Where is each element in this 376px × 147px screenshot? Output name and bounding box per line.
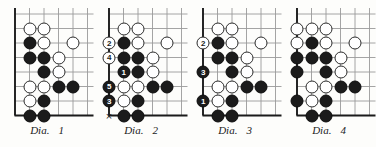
- stone-black: [211, 51, 224, 64]
- stone-white: [211, 80, 224, 93]
- stones-layer: 24153×: [103, 8, 177, 119]
- stone-black: [161, 80, 174, 93]
- go-board: 231: [197, 8, 271, 119]
- stone-white: [305, 80, 318, 93]
- stones-layer: [9, 8, 83, 119]
- stone-white: [320, 80, 333, 93]
- move-stone-2: 2: [197, 37, 210, 50]
- stone-black: [226, 51, 239, 64]
- stones-layer: 231: [197, 8, 271, 119]
- move-stone-5: 5: [103, 80, 116, 93]
- move-stone-3: 3: [103, 95, 116, 108]
- stone-white: [240, 66, 253, 79]
- diagram-caption: Dia.1: [0, 124, 94, 136]
- stone-black: [23, 37, 36, 50]
- stone-black: [255, 80, 268, 93]
- stone-black: [132, 95, 145, 108]
- stone-black: [117, 51, 130, 64]
- stone-white: [23, 95, 36, 108]
- stone-white: [117, 80, 130, 93]
- diagram-caption: Dia.4: [282, 124, 376, 136]
- stone-white: [305, 95, 318, 108]
- stone-white: [305, 22, 318, 35]
- move-number: 2: [104, 38, 115, 49]
- stone-black: [38, 95, 51, 108]
- stone-white: [211, 22, 224, 35]
- stone-white: [146, 51, 159, 64]
- stone-white: [240, 51, 253, 64]
- go-board: 24153×: [103, 8, 177, 119]
- stone-black: [211, 37, 224, 50]
- caption-label: Dia.: [312, 124, 331, 136]
- diagram-3: 231Dia.3: [188, 0, 282, 147]
- caption-label: Dia.: [124, 124, 143, 136]
- stone-white: [226, 80, 239, 93]
- stone-black: [349, 80, 362, 93]
- stone-white: [132, 80, 145, 93]
- stone-white: [320, 37, 333, 50]
- stone-black: [23, 51, 36, 64]
- stone-white: [23, 22, 36, 35]
- stone-black: [320, 66, 333, 79]
- diagram-4: Dia.4: [282, 0, 376, 147]
- stone-white: [161, 37, 174, 50]
- move-stone-2: 2: [103, 37, 116, 50]
- caption-label: Dia.: [218, 124, 237, 136]
- stone-white: [349, 37, 362, 50]
- caption-index: 2: [152, 124, 158, 136]
- stone-black: [146, 80, 159, 93]
- move-stone-1: 1: [197, 95, 210, 108]
- x-mark: ×: [104, 110, 115, 121]
- stone-black: [320, 95, 333, 108]
- move-stone-4: 4: [103, 51, 116, 64]
- stone-black: [226, 66, 239, 79]
- stone-white: [132, 37, 145, 50]
- stone-white: [255, 37, 268, 50]
- stone-white: [226, 22, 239, 35]
- stone-white: [334, 66, 347, 79]
- stone-black: [38, 51, 51, 64]
- caption-index: 3: [246, 124, 252, 136]
- caption-index: 4: [340, 124, 346, 136]
- stones-layer: [291, 8, 365, 119]
- stone-black: [117, 37, 130, 50]
- stone-white: [146, 66, 159, 79]
- stone-white: [226, 37, 239, 50]
- move-number: 1: [118, 67, 129, 78]
- move-number: 3: [104, 96, 115, 107]
- stone-black: [38, 66, 51, 79]
- move-number: 1: [198, 96, 209, 107]
- stone-black: [291, 51, 304, 64]
- move-number: 3: [198, 67, 209, 78]
- caption-index: 1: [58, 124, 64, 136]
- stone-black: [320, 51, 333, 64]
- caption-label: Dia.: [30, 124, 49, 136]
- go-diagram-set: Dia.124153×Dia.2231Dia.3Dia.4: [0, 0, 376, 147]
- stone-black: [132, 109, 145, 122]
- stone-black: [23, 109, 36, 122]
- go-board: [9, 8, 83, 119]
- stone-white: [320, 22, 333, 35]
- stone-black: [240, 80, 253, 93]
- stone-black: [305, 51, 318, 64]
- stone-black: [320, 109, 333, 122]
- stone-white: [117, 22, 130, 35]
- move-number: 4: [104, 52, 115, 63]
- stone-black: [52, 80, 65, 93]
- stone-black: [291, 95, 304, 108]
- stone-black: [211, 109, 224, 122]
- move-number: 2: [198, 38, 209, 49]
- stone-white: [23, 80, 36, 93]
- stone-black: [305, 37, 318, 50]
- stone-white: [38, 37, 51, 50]
- stone-white: [334, 51, 347, 64]
- stone-black: [226, 95, 239, 108]
- stone-white: [132, 22, 145, 35]
- move-stone-1: 1: [117, 66, 130, 79]
- diagram-2: 24153×Dia.2: [94, 0, 188, 147]
- stone-white: [38, 22, 51, 35]
- stone-black: [38, 109, 51, 122]
- stone-black: [291, 66, 304, 79]
- stone-black: [334, 80, 347, 93]
- stone-black: [305, 109, 318, 122]
